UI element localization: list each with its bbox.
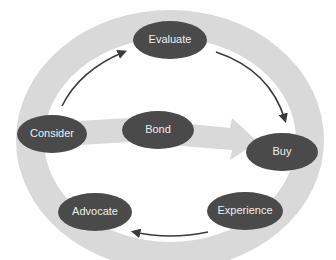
node-experience-label: Experience — [217, 204, 272, 216]
node-consider-label: Consider — [30, 127, 74, 139]
node-advocate-label: Advocate — [72, 205, 118, 217]
arrow-experience-to-advocate — [134, 232, 208, 236]
node-bond-label: Bond — [145, 123, 171, 135]
node-consider: Consider — [17, 115, 87, 153]
node-buy-label: Buy — [273, 145, 292, 157]
node-evaluate: Evaluate — [133, 21, 207, 59]
node-advocate: Advocate — [58, 193, 132, 231]
node-buy: Buy — [246, 133, 318, 171]
node-evaluate-label: Evaluate — [149, 33, 192, 45]
node-experience: Experience — [207, 192, 283, 230]
customer-journey-cycle-diagram: Evaluate Consider Bond Buy Advocate Expe… — [0, 0, 336, 260]
node-bond: Bond — [122, 111, 194, 149]
